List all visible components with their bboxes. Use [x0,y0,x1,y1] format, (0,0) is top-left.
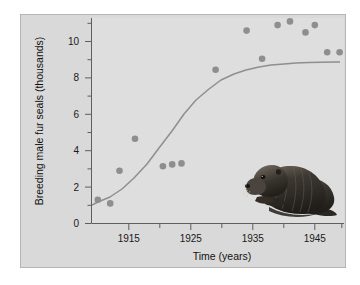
data-point [243,27,250,34]
data-point [178,160,185,167]
data-point [324,49,331,56]
data-point [169,161,176,168]
data-point [302,29,309,36]
x-tick-label-1915: 1915 [118,233,141,244]
scatter-plot: 0 2 4 6 8 10 1915 1925 1935 1945 Time (y… [21,15,345,267]
y-tick-label-10: 10 [68,36,80,47]
data-point [336,49,343,56]
y-axis-title: Breeding male fur seals (thousands) [33,37,45,206]
y-tick-label-0: 0 [73,218,79,229]
data-point [132,136,139,143]
x-tick-label-1925: 1925 [180,233,203,244]
plot-area [91,18,344,223]
x-tick-label-1945: 1945 [304,233,327,244]
data-point [212,66,219,73]
x-tick-label-1935: 1935 [242,233,265,244]
x-axis-title: Time (years) [193,250,252,262]
y-tick-label-4: 4 [73,145,79,156]
data-point [312,22,319,29]
data-point [287,18,294,25]
data-point [259,56,266,63]
data-point [160,163,167,170]
data-point [274,22,281,29]
y-tick-label-8: 8 [73,72,79,83]
figure-panel: 0 2 4 6 8 10 1915 1925 1935 1945 Time (y… [20,14,346,268]
y-tick-label-2: 2 [73,182,79,193]
data-point [107,200,114,207]
data-point [95,197,102,204]
y-tick-label-6: 6 [73,109,79,120]
data-point [116,167,123,174]
